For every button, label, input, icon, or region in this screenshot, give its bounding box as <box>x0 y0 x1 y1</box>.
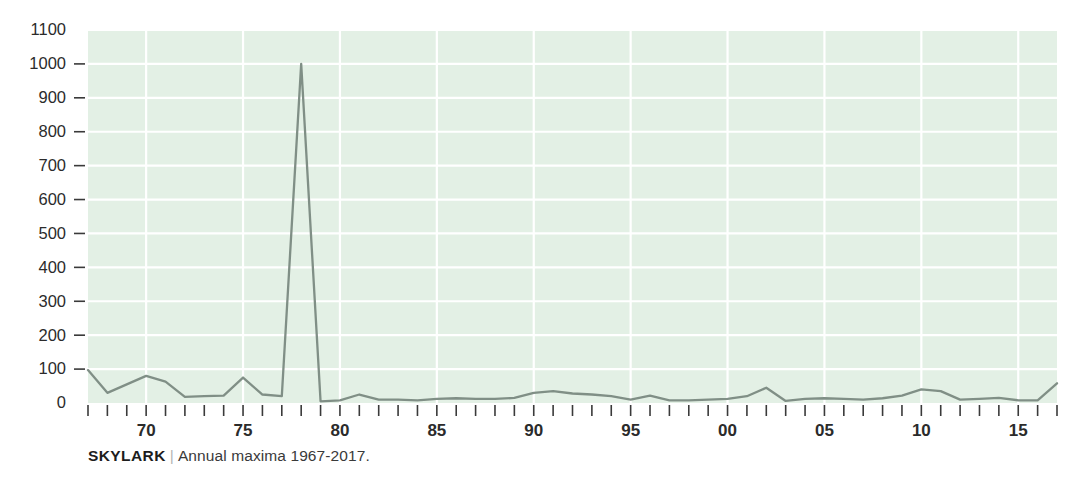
x-tick-label: 75 <box>234 421 253 440</box>
y-tick-label: 800 <box>38 122 66 140</box>
x-tick-label: 85 <box>427 421 446 440</box>
plot-area-background <box>88 30 1057 403</box>
chart-figure: 010020030040050060070080090010001100 707… <box>0 0 1088 484</box>
x-tick-label: 90 <box>524 421 543 440</box>
x-tick-label: 70 <box>137 421 156 440</box>
y-tick-label: 300 <box>38 292 66 310</box>
y-tick-label: 1100 <box>31 20 66 38</box>
y-tick-label: 0 <box>57 393 66 411</box>
y-tick-label: 1000 <box>29 54 66 72</box>
y-tick-label: 100 <box>38 359 66 377</box>
y-tick-label: 700 <box>38 156 66 174</box>
x-tick-label: 05 <box>815 421 834 440</box>
caption-separator: | <box>166 447 178 464</box>
y-tick-label: 200 <box>38 326 66 344</box>
x-tick-label: 00 <box>718 421 737 440</box>
x-tick-label: 15 <box>1009 421 1028 440</box>
y-tick-label: 600 <box>38 190 66 208</box>
x-tick-label: 95 <box>621 421 640 440</box>
skylark-line-chart: 010020030040050060070080090010001100 707… <box>0 0 1088 484</box>
y-tick-label: 900 <box>38 88 66 106</box>
y-tick-label: 500 <box>38 224 66 242</box>
caption: SKYLARK|Annual maxima 1967-2017. <box>88 447 370 465</box>
caption-title: SKYLARK <box>88 447 166 464</box>
x-tick-label: 80 <box>330 421 349 440</box>
y-tick-label: 400 <box>38 258 66 276</box>
caption-subtitle: Annual maxima 1967-2017. <box>178 447 370 464</box>
x-tick-label: 10 <box>912 421 931 440</box>
